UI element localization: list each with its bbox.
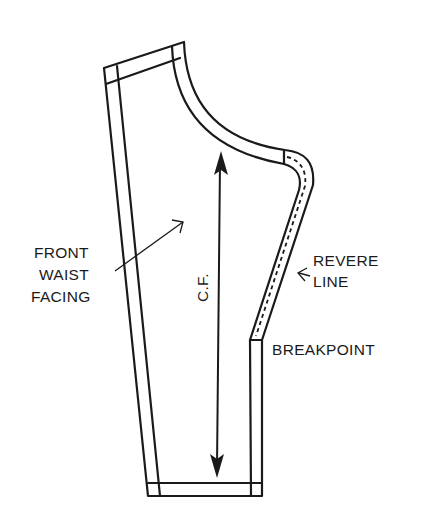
label-front: FRONT <box>34 244 89 261</box>
label-waist: WAIST <box>39 266 89 283</box>
seam-line-right <box>250 340 251 496</box>
revere-pointer-arrow <box>298 268 310 281</box>
seam-line-left <box>117 66 160 496</box>
arrowhead-up-icon <box>214 151 228 175</box>
facing-pointer-arrow <box>115 220 183 271</box>
facing-outer-outline <box>104 42 313 496</box>
seam-line-revere <box>250 164 300 340</box>
label-center-front: C.F. <box>194 273 211 302</box>
label-breakpoint: BREAKPOINT <box>272 341 375 358</box>
label-revere: REVERE <box>313 252 379 269</box>
center-front-arrow <box>210 151 228 478</box>
label-line: LINE <box>313 273 349 290</box>
label-facing: FACING <box>31 288 91 305</box>
pattern-diagram: FRONT WAIST FACING C.F. REVERE LINE BREA… <box>0 0 431 521</box>
